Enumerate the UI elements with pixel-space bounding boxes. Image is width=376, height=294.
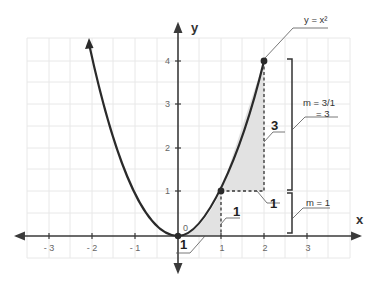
y-axis-label: y xyxy=(191,20,199,35)
x-tick-label: 2 xyxy=(262,243,267,253)
x-tick-label: - 2 xyxy=(87,243,98,253)
slope2-text-line2: = 3 xyxy=(316,108,329,119)
run2-label: 1 xyxy=(270,196,277,211)
x-tick-labels: - 3 - 2 - 1 1 2 3 xyxy=(44,243,311,253)
grid xyxy=(27,38,350,258)
y-tick-label: 1 xyxy=(165,186,170,196)
run1-label: 1 xyxy=(180,237,187,252)
x-tick-label: - 1 xyxy=(130,243,141,253)
rise2-label: 3 xyxy=(271,118,278,133)
x-tick-label: 3 xyxy=(305,243,310,253)
y-tick-label: 3 xyxy=(165,99,170,109)
x-axis-label: x xyxy=(356,212,364,227)
x-tick-label: - 3 xyxy=(44,243,55,253)
slope1-text: m = 1 xyxy=(306,197,330,208)
slope2-text-line1: m = 3/1 xyxy=(303,97,335,108)
bracket-step2 xyxy=(287,59,292,190)
point-2-4 xyxy=(261,58,268,65)
curve-label: y = x² xyxy=(304,14,328,25)
slope-brackets xyxy=(287,59,292,233)
y-tick-label: 2 xyxy=(165,143,170,153)
origin-label: 0 xyxy=(183,223,188,233)
x-tick-label: 1 xyxy=(219,243,224,253)
y-tick-label: 4 xyxy=(165,56,170,66)
point-1-1 xyxy=(218,188,225,195)
parabola-slope-diagram: - 3 - 2 - 1 1 2 3 1 2 3 4 y x 0 y = x² m… xyxy=(0,0,376,294)
rise1-label: 1 xyxy=(233,204,240,219)
